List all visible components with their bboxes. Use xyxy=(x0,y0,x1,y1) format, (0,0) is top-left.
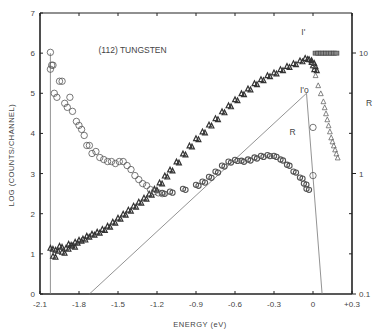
point-right-tail-triangles xyxy=(316,83,321,88)
point-right-tail-triangles xyxy=(324,111,329,116)
point-r-circles-left- xyxy=(101,156,107,162)
y2-tick-label: 1 xyxy=(359,170,364,179)
point-right-tail-triangles xyxy=(326,123,331,128)
y-tick-label: 2 xyxy=(31,210,36,219)
x-tick-label: -2.1 xyxy=(33,300,47,309)
x-tick-label: -1.5 xyxy=(111,300,125,309)
annotations: (112) TUNGSTENI'I'oR xyxy=(99,27,309,137)
point-r-circles-left- xyxy=(104,158,110,164)
y-axis-ticks: 01234567 xyxy=(31,9,43,299)
y2-tick-label: 10 xyxy=(359,49,368,58)
label-i-zero: I'o xyxy=(300,85,309,95)
point-r-circles-left- xyxy=(108,158,114,164)
x-tick-label: -0.3 xyxy=(267,300,281,309)
y-axis-title: LOG (COUNTS/CHANNEL) xyxy=(7,104,16,207)
y-tick-label: 3 xyxy=(31,170,36,179)
chart: -2.1-1.8-1.5-1.2-0.9-0.6-0.30+0.3 012345… xyxy=(0,0,381,331)
chart-title: (112) TUNGSTEN xyxy=(99,45,167,55)
point-r-circles-left- xyxy=(128,166,134,172)
point-left-edge-markers xyxy=(310,124,316,130)
y-tick-label: 1 xyxy=(31,250,36,259)
x-tick-label: 0 xyxy=(311,300,316,309)
point-r-circles-left- xyxy=(124,162,130,168)
x-tick-label: -0.9 xyxy=(189,300,203,309)
point-r-circles-left- xyxy=(140,180,146,186)
point-r-circles-left- xyxy=(67,94,73,100)
y2-axis-title: R xyxy=(366,98,372,108)
point-r-circles-left- xyxy=(132,172,138,178)
point-right-tail-triangles xyxy=(325,117,330,122)
point-r-circles-left- xyxy=(136,176,142,182)
y-tick-label: 7 xyxy=(31,9,36,18)
y-tick-label: 6 xyxy=(31,49,36,58)
point-r-circles-left- xyxy=(69,108,75,114)
y-tick-label: 5 xyxy=(31,89,36,98)
x-tick-label: -0.6 xyxy=(228,300,242,309)
data-marks xyxy=(47,49,340,259)
point-r-circles-left- xyxy=(93,148,99,154)
point-right-tail-triangles xyxy=(313,73,318,78)
point-r-circles-left- xyxy=(143,182,149,188)
point-right-tail-triangles xyxy=(321,99,326,104)
x-tick-label: -1.2 xyxy=(150,300,164,309)
y-tick-label: 4 xyxy=(31,129,36,138)
point-r-circles-left- xyxy=(81,132,87,138)
x-tick-label: +0.3 xyxy=(344,300,360,309)
point-r-circles-left- xyxy=(89,150,95,156)
point-r-circles-left- xyxy=(97,154,103,160)
label-i-prime: I' xyxy=(301,27,305,37)
x-tick-label: -1.8 xyxy=(72,300,86,309)
point-plateau xyxy=(334,51,339,55)
label-r: R xyxy=(290,127,296,137)
x-axis-title: ENERGY (eV) xyxy=(173,320,226,329)
point-r-circles-left- xyxy=(112,160,118,166)
line-i-o xyxy=(89,93,322,294)
y2-tick-label: 0.1 xyxy=(359,290,371,299)
y-tick-label: 0 xyxy=(31,290,36,299)
point-right-tail-triangles xyxy=(328,129,333,134)
point-r-circles-left- xyxy=(120,158,126,164)
point-right-tail-triangles xyxy=(322,105,327,110)
reference-lines xyxy=(50,53,322,294)
point-r-circles-left- xyxy=(116,158,122,164)
point-right-tail-triangles xyxy=(318,91,323,96)
